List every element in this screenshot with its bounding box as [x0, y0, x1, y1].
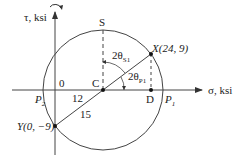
sigma-axis-label: σ, ksi [208, 85, 232, 96]
label-s: S [99, 17, 105, 28]
point-c [101, 88, 105, 92]
label-2theta-p1: 2θP1 [128, 71, 146, 85]
label-origin: 0 [59, 78, 65, 89]
tau-axis-label: τ, ksi [24, 12, 47, 23]
mohr-circle-diagram [0, 0, 241, 164]
label-radius: 15 [80, 109, 91, 120]
label-p1: P1 [165, 94, 175, 108]
label-x: X(24, 9) [152, 43, 188, 54]
label-c: C [92, 78, 99, 89]
label-d: D [146, 94, 154, 105]
point-d [149, 88, 153, 92]
label-p2: P2 [35, 94, 45, 108]
label-y: Y(0, −9) [17, 121, 54, 132]
label-center-distance: 12 [72, 93, 83, 104]
label-2theta-s1: 2θS1 [112, 50, 130, 64]
